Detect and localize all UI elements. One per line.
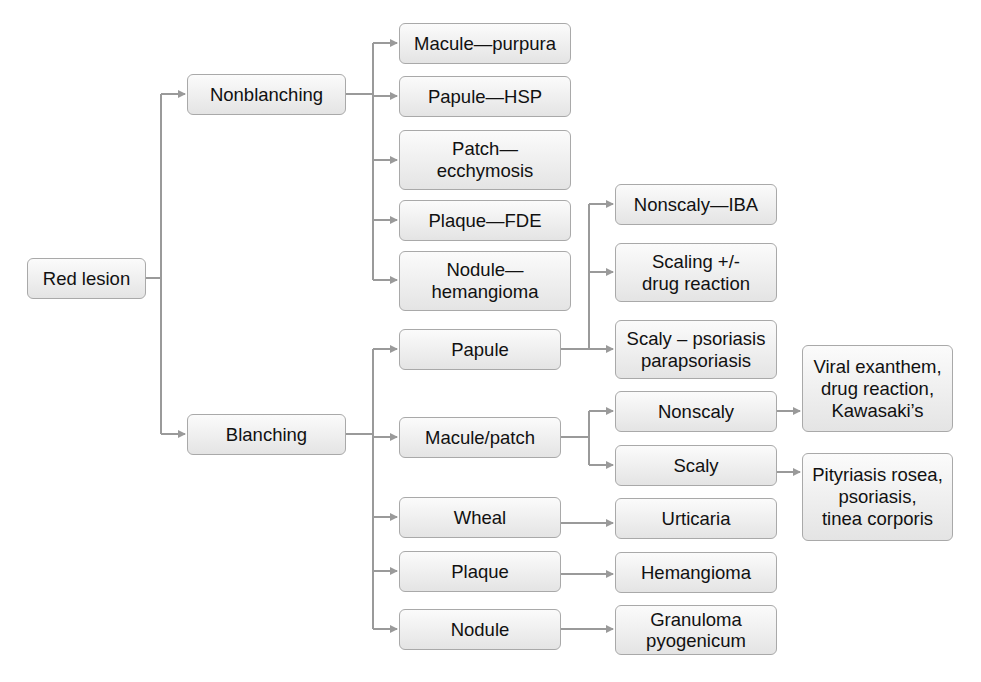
node-wheal: Wheal [399, 497, 561, 538]
node-urticaria: Urticaria [615, 498, 777, 539]
node-nonblanching: Nonblanching [187, 74, 346, 115]
node-macule-patch: Macule/patch [399, 417, 561, 458]
node-viral-exanthem: Viral exanthem, drug reaction, Kawasaki’… [802, 345, 953, 432]
node-red-lesion: Red lesion [27, 258, 146, 299]
node-papule-hsp: Papule—HSP [399, 76, 571, 117]
node-nodule: Nodule [399, 609, 561, 650]
node-scaly: Scaly [615, 445, 777, 486]
node-plaque: Plaque [399, 551, 561, 592]
node-nonscaly-iba: Nonscaly—IBA [615, 184, 777, 225]
node-papule: Papule [399, 329, 561, 370]
node-blanching: Blanching [187, 414, 346, 455]
node-scaly-psoriasis: Scaly – psoriasis parapsoriasis [615, 320, 777, 379]
node-hemangioma: Hemangioma [615, 552, 777, 593]
node-granuloma-pyogenicum: Granuloma pyogenicum [615, 605, 777, 655]
node-scaling-drug-reaction: Scaling +/- drug reaction [615, 243, 777, 302]
node-pityriasis-rosea: Pityriasis rosea, psoriasis, tinea corpo… [802, 453, 953, 541]
node-nodule-hemangioma: Nodule— hemangioma [399, 251, 571, 311]
node-macule-purpura: Macule—purpura [399, 23, 571, 64]
node-nonscaly: Nonscaly [615, 391, 777, 432]
node-plaque-fde: Plaque—FDE [399, 200, 571, 241]
node-patch-ecchymosis: Patch— ecchymosis [399, 130, 571, 190]
